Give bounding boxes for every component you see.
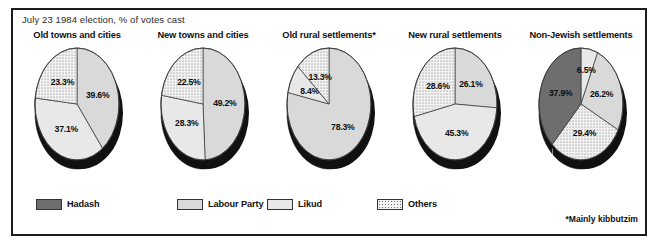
pie-chart-5: Non-Jewish settlements6.5%26.2%29.4%37.9…	[518, 30, 644, 174]
slice-percent-label: 8.4%	[300, 86, 319, 96]
slice-percent-label: 28.6%	[426, 81, 449, 91]
slice-percent-label: 45.3%	[445, 128, 468, 138]
pie-body: 78.3%8.4%13.3%	[266, 42, 392, 174]
pie-chart-title: Old rural settlements*	[266, 30, 392, 40]
pie-chart-1: Old towns and cities39.6%37.1%23.3%	[14, 30, 140, 174]
legend-label-others: Others	[408, 199, 437, 209]
pie-body: 49.2%28.3%22.5%	[140, 42, 266, 174]
slice-percent-label: 26.1%	[459, 79, 482, 89]
legend-swatch-likud	[267, 199, 293, 210]
slice-percent-label: 29.4%	[573, 128, 596, 138]
pie-body: 6.5%26.2%29.4%37.9%	[518, 42, 644, 174]
slice-percent-label: 39.6%	[86, 90, 109, 100]
pie-body: 39.6%37.1%23.3%	[14, 42, 140, 174]
legend-item-likud: Likud	[267, 197, 322, 211]
pie-charts-row: Old towns and cities39.6%37.1%23.3%New t…	[14, 30, 646, 190]
legend-swatch-hadash	[36, 199, 62, 210]
slice-percent-label: 28.3%	[175, 118, 198, 128]
legend-swatch-others	[377, 199, 403, 210]
pie-body: 26.1%45.3%28.6%	[392, 42, 518, 174]
footnote: *Mainly kibbutzim	[565, 214, 638, 224]
pie-chart-title: Non-Jewish settlements	[518, 30, 644, 40]
pie-chart-title: New towns and cities	[140, 30, 266, 40]
pie-chart-title: New rural settlements	[392, 30, 518, 40]
legend-item-hadash: Hadash	[36, 197, 100, 211]
legend-label-hadash: Hadash	[67, 199, 100, 209]
slice-percent-label: 78.3%	[331, 122, 354, 132]
slice-percent-label: 49.2%	[213, 98, 236, 108]
legend-item-labour: Labour Party	[177, 197, 263, 211]
legend-swatch-labour	[177, 199, 203, 210]
slice-percent-label: 37.1%	[55, 124, 78, 134]
slice-percent-label: 26.2%	[590, 89, 613, 99]
slice-percent-label: 6.5%	[577, 65, 596, 75]
legend-item-others: Others	[377, 197, 437, 211]
slice-percent-label: 22.5%	[177, 77, 200, 87]
pie-chart-title: Old towns and cities	[14, 30, 140, 40]
legend-label-likud: Likud	[298, 199, 322, 209]
chart-subtitle: July 23 1984 election, % of votes cast	[22, 14, 185, 25]
legend-label-labour: Labour Party	[208, 199, 263, 209]
slice-percent-label: 23.3%	[51, 77, 74, 87]
figure-root: July 23 1984 election, % of votes cast O…	[0, 0, 660, 249]
slice-percent-label: 13.3%	[308, 72, 331, 82]
pie-chart-2: New towns and cities49.2%28.3%22.5%	[140, 30, 266, 174]
pie-chart-4: New rural settlements26.1%45.3%28.6%	[392, 30, 518, 174]
legend: HadashLabour PartyLikudOthers	[22, 197, 622, 217]
slice-percent-label: 37.9%	[549, 88, 572, 98]
pie-chart-3: Old rural settlements*78.3%8.4%13.3%	[266, 30, 392, 174]
